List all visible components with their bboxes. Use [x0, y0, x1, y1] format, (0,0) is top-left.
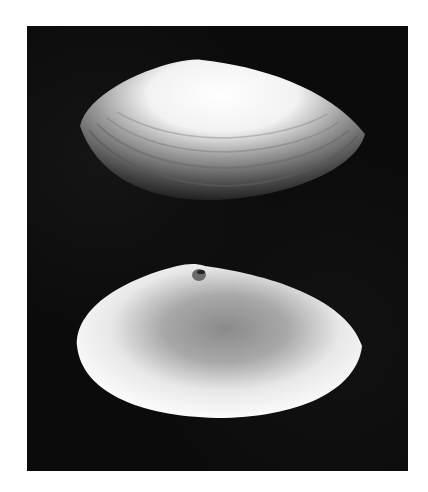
shell-interior-view	[77, 264, 362, 418]
shell-illustration	[27, 26, 408, 471]
shell-exterior-view	[80, 60, 365, 200]
specimen-photo	[27, 26, 408, 471]
